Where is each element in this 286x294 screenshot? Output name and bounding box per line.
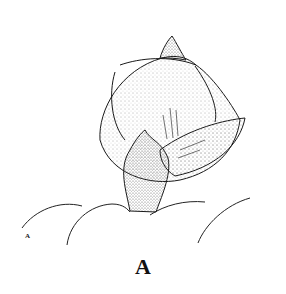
corner-label: A [25, 232, 30, 240]
figure-caption: A [0, 254, 286, 280]
figure: A A [0, 0, 286, 294]
bud-illustration [0, 0, 286, 294]
bud-body [100, 36, 245, 182]
